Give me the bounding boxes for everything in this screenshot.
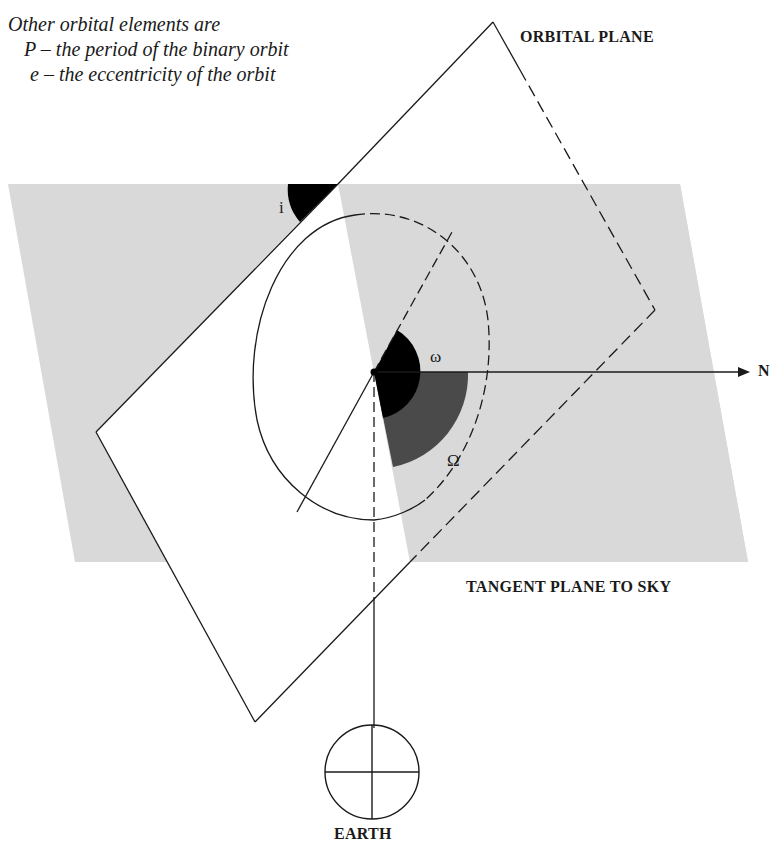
orbital-plane-label: ORBITAL PLANE: [520, 28, 654, 46]
orbit-diagram: [0, 0, 773, 845]
longitude-of-node-label: Ω: [447, 451, 460, 471]
north-label: N: [758, 362, 770, 380]
node-point: [371, 369, 378, 376]
earth-label: EARTH: [334, 825, 392, 843]
caption-item-period: P – the period of the binary orbit: [8, 37, 289, 62]
argument-of-periastron-label: ω: [430, 347, 441, 367]
tangent-plane-label: TANGENT PLANE TO SKY: [466, 578, 671, 596]
caption-heading: Other orbital elements are: [8, 12, 289, 37]
caption-item-eccentricity: e – the eccentricity of the orbit: [8, 62, 289, 87]
inclination-label: i: [279, 198, 284, 218]
orbital-elements-caption: Other orbital elements are P – the perio…: [8, 12, 289, 87]
north-arrowhead-icon: [738, 367, 750, 377]
earth-icon: [325, 725, 419, 819]
